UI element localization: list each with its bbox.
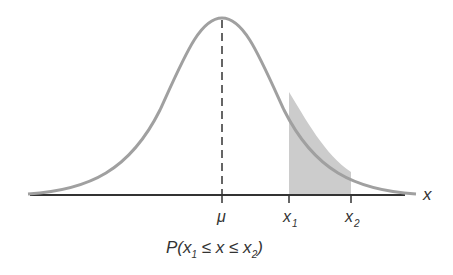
caption-prefix: P(x (166, 238, 192, 257)
shaded-probability-region (289, 92, 351, 195)
normal-curve-diagram: μ x 1 x 2 x P(x1 ≤ x ≤ x2) (0, 0, 453, 275)
caption-suffix: ) (255, 238, 263, 257)
caption-middle: ≤ x ≤ x (197, 238, 252, 257)
tick-label-mu: μ (216, 208, 226, 225)
tick-label-x1-sub: 1 (292, 218, 298, 229)
tick-label-x1: x (282, 208, 292, 225)
probability-caption: P(x1 ≤ x ≤ x2) (166, 238, 263, 260)
axis-label-x: x (422, 185, 432, 204)
tick-label-x2: x (344, 208, 354, 225)
tick-label-x2-sub: 2 (353, 218, 360, 229)
